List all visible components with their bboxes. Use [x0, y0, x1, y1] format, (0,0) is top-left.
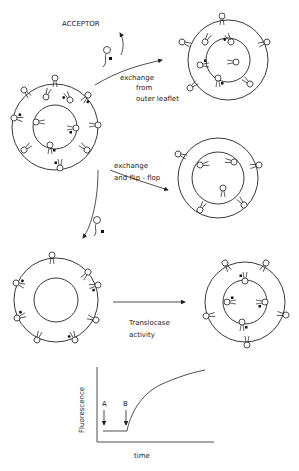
lipid-translocation-diagram: ACCEPTOR exchange from outer leaflet [0, 0, 299, 471]
vesicle-initial [11, 75, 101, 171]
fluorescence-curve [103, 370, 205, 431]
graph-ylabel: Fluorescence [78, 387, 86, 433]
svg-text:outer leaflet: outer leaflet [136, 95, 179, 103]
svg-text:activity: activity [129, 331, 155, 339]
label-translocase: Translocase [128, 319, 170, 327]
label-exchange-outer: exchange [120, 74, 154, 82]
acceptor-arrow [120, 33, 123, 55]
svg-text:and flip - flop: and flip - flop [114, 174, 161, 182]
acceptor-label: ACCEPTOR [62, 20, 100, 28]
released-lipid [94, 217, 105, 237]
label-flip-flop: exchange [114, 162, 148, 170]
free-lipid-head [104, 47, 111, 54]
graph-xlabel: time [134, 452, 150, 460]
acceptor-group: ACCEPTOR [62, 20, 123, 67]
svg-text:from: from [136, 84, 152, 92]
vesicle-flip-flop [174, 138, 262, 218]
marker-b: B [123, 400, 128, 408]
vesicle-outer-exchanged [178, 13, 271, 100]
fluorescence-graph: Fluorescence time A B [78, 367, 214, 460]
marker-a: A [102, 400, 107, 408]
vesicle-before-translocase [12, 252, 102, 345]
vesicle-after-translocase [203, 259, 290, 348]
